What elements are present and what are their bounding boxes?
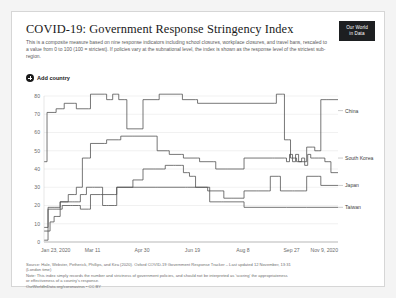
- y-axis-tick-label: 70: [34, 111, 40, 117]
- series-line-china[interactable]: [44, 94, 338, 162]
- x-axis-tick-label: Jan 23, 2020: [41, 247, 71, 253]
- series-label-taiwan[interactable]: Taiwan: [345, 204, 361, 210]
- stringency-line-chart[interactable]: 01020304050607080Jan 23, 2020Mar 11Apr 3…: [12, 86, 386, 258]
- y-axis-tick-label: 20: [34, 202, 40, 208]
- series-label-china[interactable]: China: [345, 108, 358, 114]
- x-axis-tick-label: Nov 9, 2020: [311, 247, 339, 253]
- y-axis-tick-label: 60: [34, 129, 40, 135]
- y-axis-tick-label: 40: [34, 166, 40, 172]
- x-axis-tick-label: Sep 27: [283, 247, 299, 253]
- y-axis-tick-label: 10: [34, 221, 40, 227]
- chart-svg: 01020304050607080Jan 23, 2020Mar 11Apr 3…: [12, 86, 386, 258]
- add-country-button[interactable]: Add country: [26, 74, 70, 82]
- chart-header: COVID-19: Government Response Stringency…: [26, 22, 336, 61]
- series-label-japan[interactable]: Japan: [345, 182, 359, 188]
- y-axis-tick-label: 80: [34, 93, 40, 99]
- add-country-label: Add country: [37, 75, 70, 81]
- x-axis-tick-label: Jun 19: [185, 247, 200, 253]
- x-axis-tick-label: Aug 8: [236, 247, 249, 253]
- chart-footer: Source: Hale, Webster, Petherick, Philli…: [26, 262, 374, 289]
- plus-circle-icon: [26, 74, 34, 82]
- series-line-taiwan[interactable]: [44, 187, 338, 231]
- chart-card: COVID-19: Government Response Stringency…: [11, 11, 385, 287]
- chart-subtitle: This is a composite measure based on nin…: [26, 39, 328, 61]
- owid-logo-line2: in Data: [349, 31, 364, 37]
- owid-logo[interactable]: Our World in Data: [339, 21, 375, 41]
- series-label-south-korea[interactable]: South Korea: [345, 155, 373, 161]
- y-axis-tick-label: 0: [37, 239, 40, 245]
- series-line-south-korea[interactable]: [44, 136, 338, 227]
- credit-link[interactable]: OurWorldInData.org/coronavirus • CC BY: [26, 284, 374, 289]
- screenshot-root: COVID-19: Government Response Stringency…: [0, 0, 396, 298]
- y-axis-tick-label: 50: [34, 148, 40, 154]
- x-axis-tick-label: Mar 11: [85, 247, 101, 253]
- series-line-japan[interactable]: [44, 165, 338, 240]
- y-axis-tick-label: 30: [34, 184, 40, 190]
- page-title: COVID-19: Government Response Stringency…: [26, 22, 336, 36]
- x-axis-tick-label: Apr 30: [134, 247, 149, 253]
